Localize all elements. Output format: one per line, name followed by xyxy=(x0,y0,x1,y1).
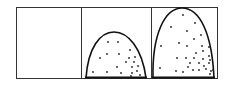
dot xyxy=(209,59,211,61)
dot xyxy=(107,41,109,43)
dot xyxy=(193,57,195,59)
dot xyxy=(182,71,184,73)
dot xyxy=(205,68,207,70)
dot xyxy=(187,66,189,68)
dot xyxy=(116,66,118,68)
dot xyxy=(99,57,101,59)
dot xyxy=(106,53,108,55)
dot xyxy=(198,69,200,71)
dot xyxy=(130,75,132,77)
dot xyxy=(208,62,210,64)
dot xyxy=(137,65,139,67)
dot xyxy=(189,62,191,64)
dot xyxy=(120,72,122,74)
dot xyxy=(92,71,94,73)
dot xyxy=(178,42,180,44)
dot xyxy=(125,61,127,63)
dot xyxy=(210,70,212,72)
dot xyxy=(182,14,184,16)
dot xyxy=(195,52,197,54)
dot xyxy=(186,45,188,47)
dot xyxy=(176,57,178,59)
dot xyxy=(175,70,177,72)
dot xyxy=(186,30,188,32)
dot xyxy=(212,69,214,71)
dot xyxy=(193,38,195,40)
dot xyxy=(134,56,136,58)
large-dome-dots xyxy=(159,14,214,75)
dot xyxy=(117,41,119,43)
dot xyxy=(159,67,161,69)
dot xyxy=(128,57,130,59)
dome-diagram xyxy=(0,0,225,86)
dot xyxy=(106,71,108,73)
dot xyxy=(198,62,200,64)
dot xyxy=(185,57,187,59)
dot xyxy=(129,49,131,51)
dot xyxy=(160,45,162,47)
large-dome-outline xyxy=(153,8,214,78)
dot xyxy=(131,66,133,68)
dot xyxy=(170,26,172,28)
dot xyxy=(200,34,202,36)
dot xyxy=(194,22,196,24)
dot xyxy=(201,45,203,47)
small-dome-dots xyxy=(92,41,141,77)
dot xyxy=(209,73,211,75)
dot xyxy=(192,69,194,71)
dot xyxy=(202,58,204,60)
dot xyxy=(202,50,204,52)
dot xyxy=(208,46,210,48)
dot xyxy=(131,72,133,74)
dot xyxy=(136,70,138,72)
panel-large-dome xyxy=(152,8,215,78)
dot xyxy=(139,74,141,76)
dot xyxy=(203,65,205,67)
dot xyxy=(208,55,210,57)
dot xyxy=(133,61,135,63)
panel-small-dome xyxy=(85,32,147,78)
dot xyxy=(118,53,120,55)
